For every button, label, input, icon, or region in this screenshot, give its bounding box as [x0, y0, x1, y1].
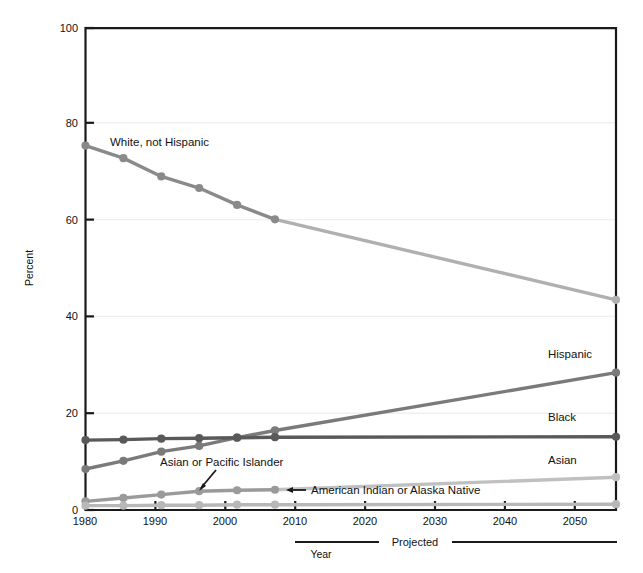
data-point — [157, 448, 165, 456]
x-axis-title: Year — [310, 548, 332, 560]
y-tick-labels: 0 20 40 60 80 100 — [60, 22, 78, 516]
chart-figure: 0 20 40 60 80 100 Percent 1980 1990 2000… — [0, 0, 643, 573]
data-point — [81, 465, 89, 473]
data-point — [612, 473, 620, 481]
data-point — [157, 435, 165, 443]
series-label-black: Black — [548, 411, 576, 423]
x-tick-labels: 1980 1990 2000 2010 2020 2030 2040 2050 — [73, 515, 587, 527]
data-point — [271, 215, 279, 223]
y-tick-label-80: 80 — [66, 117, 78, 129]
x-tick-label-2040: 2040 — [493, 515, 517, 527]
data-point — [157, 172, 165, 180]
data-point — [157, 501, 165, 509]
callout-label-american-indian: American Indian or Alaska Native — [311, 484, 480, 496]
chart-canvas: 0 20 40 60 80 100 Percent 1980 1990 2000… — [0, 0, 643, 573]
data-point — [119, 436, 127, 444]
data-point — [195, 501, 203, 509]
data-point — [612, 433, 620, 441]
y-tick-label-100: 100 — [60, 22, 78, 34]
series-label-asian: Asian — [548, 454, 577, 466]
data-point — [233, 201, 241, 209]
data-point — [233, 501, 241, 509]
data-point — [81, 142, 89, 150]
projected-bracket: Projected — [295, 536, 617, 548]
data-point — [233, 434, 241, 442]
x-tick-label-2050: 2050 — [563, 515, 587, 527]
series-label-white: White, not Hispanic — [110, 136, 209, 148]
data-point — [81, 502, 89, 510]
y-axis-title: Percent — [23, 250, 35, 286]
data-point — [119, 502, 127, 510]
data-point — [612, 500, 620, 508]
x-tick-label-1990: 1990 — [143, 515, 167, 527]
data-point — [119, 154, 127, 162]
data-point — [119, 494, 127, 502]
series-segment — [123, 439, 161, 440]
data-point — [271, 433, 279, 441]
data-point — [195, 434, 203, 442]
projected-label: Projected — [392, 536, 438, 548]
data-point — [271, 501, 279, 509]
x-tick-label-2000: 2000 — [213, 515, 237, 527]
data-point — [612, 369, 620, 377]
y-tick-label-20: 20 — [66, 407, 78, 419]
callout-label-asian-pacific: Asian or Pacific Islander — [160, 456, 284, 468]
x-tick-label-1980: 1980 — [73, 515, 97, 527]
x-tick-label-2020: 2020 — [353, 515, 377, 527]
data-point — [81, 436, 89, 444]
data-point — [119, 457, 127, 465]
data-point — [157, 490, 165, 498]
series-label-hispanic: Hispanic — [548, 348, 592, 360]
series-segment — [199, 490, 237, 491]
y-tick-label-60: 60 — [66, 214, 78, 226]
data-point — [612, 296, 620, 304]
data-point — [271, 486, 279, 494]
x-tick-label-2030: 2030 — [423, 515, 447, 527]
data-point — [195, 442, 203, 450]
x-tick-label-2010: 2010 — [283, 515, 307, 527]
y-tick-label-40: 40 — [66, 310, 78, 322]
data-point — [195, 184, 203, 192]
data-point — [233, 486, 241, 494]
